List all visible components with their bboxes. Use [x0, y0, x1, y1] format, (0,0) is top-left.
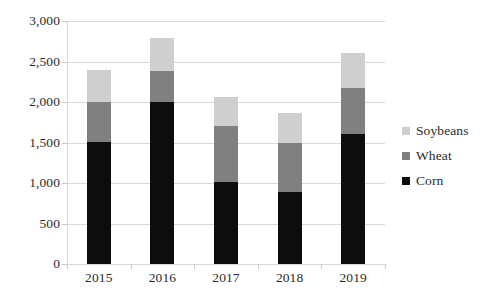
x-axis-tick-mark — [67, 264, 68, 269]
y-axis-labels: 05001,0001,5002,0002,5003,000 — [0, 0, 60, 302]
bar-group — [150, 21, 174, 264]
stacked-bar-chart: 05001,0001,5002,0002,5003,000 2015201620… — [0, 0, 490, 302]
y-axis-tick-label: 0 — [2, 257, 60, 270]
bar-segment-wheat — [341, 88, 365, 134]
y-axis-tick-mark — [62, 143, 67, 144]
x-axis-tick-mark — [321, 264, 322, 269]
legend-swatch-icon — [402, 177, 410, 185]
bar-segment-soybeans — [214, 97, 238, 125]
bar-segment-soybeans — [150, 38, 174, 71]
legend-label: Wheat — [416, 148, 452, 164]
y-axis-tick-mark — [62, 224, 67, 225]
x-axis-tick-mark — [194, 264, 195, 269]
plot-area — [67, 21, 385, 264]
bar-group — [341, 21, 365, 264]
bar-segment-corn — [341, 134, 365, 264]
y-axis-tick-mark — [62, 102, 67, 103]
legend-item-soybeans[interactable]: Soybeans — [402, 118, 488, 143]
x-axis-tick-label: 2019 — [321, 270, 385, 286]
legend-label: Corn — [416, 173, 443, 189]
legend-item-wheat[interactable]: Wheat — [402, 143, 488, 168]
bar-segment-soybeans — [341, 53, 365, 88]
x-axis-tick-label: 2017 — [194, 270, 258, 286]
y-axis-tick-label: 1,000 — [2, 176, 60, 189]
bar-segment-wheat — [87, 102, 111, 142]
y-axis-tick-mark — [62, 62, 67, 63]
chart-legend: SoybeansWheatCorn — [402, 118, 488, 193]
y-axis-tick-mark — [62, 21, 67, 22]
bar-segment-soybeans — [278, 113, 302, 142]
legend-swatch-icon — [402, 152, 410, 160]
bar-group — [278, 21, 302, 264]
x-axis-tick-label: 2016 — [130, 270, 194, 286]
y-axis-tick-label: 2,500 — [2, 55, 60, 68]
gridline-0 — [67, 264, 385, 265]
legend-label: Soybeans — [416, 123, 469, 139]
y-axis-tick-mark — [62, 183, 67, 184]
x-axis-tick-mark — [258, 264, 259, 269]
legend-item-corn[interactable]: Corn — [402, 168, 488, 193]
bar-segment-corn — [214, 182, 238, 264]
x-axis-tick-label: 2015 — [67, 270, 131, 286]
y-axis-tick-label: 1,500 — [2, 136, 60, 149]
bar-segment-wheat — [214, 126, 238, 183]
bar-segment-wheat — [278, 143, 302, 192]
x-axis-tick-label: 2018 — [258, 270, 322, 286]
x-axis-tick-mark — [131, 264, 132, 269]
legend-swatch-icon — [402, 127, 410, 135]
y-axis-tick-label: 3,000 — [2, 14, 60, 27]
bar-segment-soybeans — [87, 70, 111, 102]
y-axis-tick-label: 2,000 — [2, 95, 60, 108]
bar-segment-corn — [278, 192, 302, 264]
bar-segment-corn — [150, 102, 174, 264]
bar-segment-wheat — [150, 71, 174, 102]
y-axis-tick-label: 500 — [2, 217, 60, 230]
bar-group — [214, 21, 238, 264]
x-axis-tick-mark — [385, 264, 386, 269]
bar-segment-corn — [87, 142, 111, 264]
bar-group — [87, 21, 111, 264]
